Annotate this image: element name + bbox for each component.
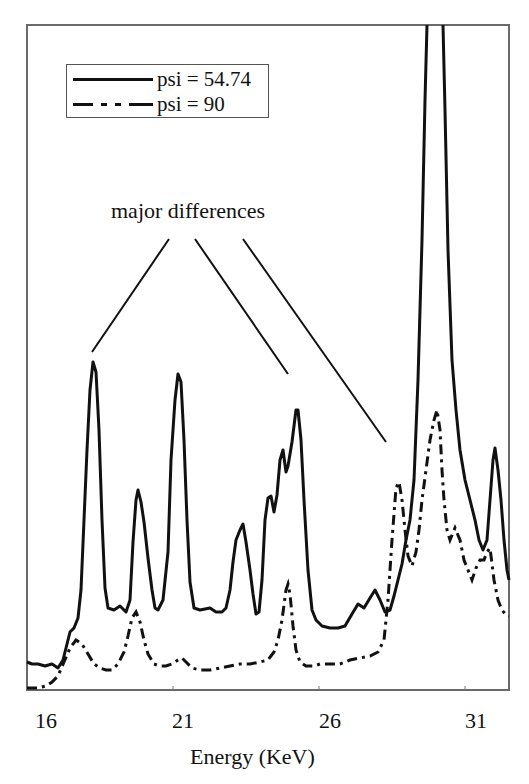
x-axis-label: Energy (KeV) — [190, 744, 315, 770]
x-tick-21: 21 — [172, 708, 194, 734]
legend: psi = 54.74 psi = 90 — [66, 64, 269, 118]
legend-item-psi-90: psi = 90 — [73, 92, 225, 116]
annotation-leader-line — [195, 239, 288, 374]
x-tick-31: 31 — [465, 708, 487, 734]
plot-frame — [27, 25, 509, 690]
solid-line-swatch-icon — [73, 78, 153, 81]
annotation-major-differences: major differences — [111, 198, 265, 224]
annotation-lines — [92, 239, 386, 442]
legend-label: psi = 90 — [157, 92, 225, 116]
annotation-leader-line — [92, 239, 169, 352]
x-tick-26: 26 — [319, 708, 341, 734]
x-tick-16: 16 — [35, 708, 57, 734]
legend-label: psi = 54.74 — [157, 67, 251, 91]
legend-item-psi-54-74: psi = 54.74 — [73, 67, 251, 91]
dash-dot-line-swatch-icon — [73, 103, 153, 106]
